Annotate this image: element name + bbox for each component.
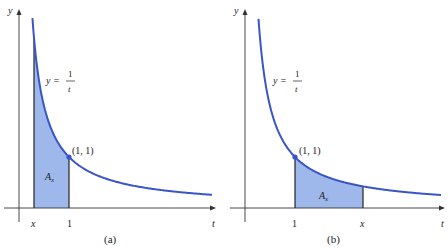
point-label-a: (1, 1) [72, 145, 94, 157]
caption-a: (a) [104, 233, 117, 246]
equation-den-a: t [68, 84, 71, 94]
t-axis-label-b: t [441, 218, 444, 229]
figure-canvas: y t x 1 y = 1 t (1, 1) Ax (a) y t 1 x y … [0, 0, 448, 248]
tick-label-1-a: 1 [67, 218, 72, 229]
equation-num-a: 1 [68, 69, 73, 79]
y-axis-arrow-a [17, 9, 22, 15]
panel-b: y t 1 x y = 1 t (1, 1) Ax (b) [230, 5, 445, 246]
point-label-b: (1, 1) [299, 145, 321, 157]
y-axis-label-b: y [233, 5, 239, 16]
y-axis-label-a: y [7, 5, 13, 16]
point-1-1-a [66, 154, 71, 159]
caption-b: (b) [327, 233, 340, 246]
equation-num-b: 1 [295, 69, 300, 79]
tick-label-1-b: 1 [292, 218, 297, 229]
panel-a: y t x 1 y = 1 t (1, 1) Ax (a) [4, 5, 216, 246]
t-axis-arrow-a [210, 206, 216, 211]
equation-den-b: t [295, 84, 298, 94]
equation-lhs-a: y = [45, 75, 60, 86]
equation-lhs-b: y = [272, 75, 287, 86]
tick-label-x-b: x [359, 218, 365, 229]
point-1-1-b [292, 154, 297, 159]
tick-label-x-a: x [30, 218, 36, 229]
t-axis-arrow-b [439, 206, 445, 211]
t-axis-label-a: t [212, 218, 215, 229]
curve-one-over-t-b [258, 19, 441, 195]
y-axis-arrow-b [243, 9, 248, 15]
